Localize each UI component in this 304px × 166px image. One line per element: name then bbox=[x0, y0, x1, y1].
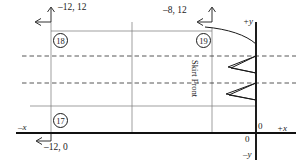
dart-shapes bbox=[226, 56, 256, 100]
coordinate-label-19: –8, 12 bbox=[163, 6, 187, 16]
coordinate-label-17: –12, 0 bbox=[44, 143, 68, 153]
node-marker-19: 19 bbox=[196, 33, 211, 48]
origin-label-upper: 0 bbox=[258, 122, 263, 131]
dashed-construction-lines bbox=[22, 56, 296, 83]
axis-label-minus-y: –y bbox=[243, 150, 252, 159]
diagram-canvas: 18 19 17 –12, 12 –8, 12 –12, 0 –x +x +y … bbox=[0, 0, 304, 166]
axis-label-plus-y: +y bbox=[243, 17, 253, 26]
waistline-curve bbox=[205, 27, 256, 44]
origin-label-lower: 0 bbox=[245, 135, 250, 144]
node-marker-18: 18 bbox=[53, 33, 68, 48]
node-marker-19-label: 19 bbox=[199, 36, 208, 46]
dart-lower bbox=[226, 83, 256, 100]
point-18-arrows bbox=[35, 7, 55, 26]
waist-curve-path bbox=[205, 27, 256, 44]
point-19-arrows bbox=[197, 7, 216, 26]
node-marker-17-label: 17 bbox=[56, 116, 65, 126]
dart-upper bbox=[228, 56, 256, 73]
piece-name-label: Skirt Front bbox=[190, 60, 200, 97]
coordinate-label-18: –12, 12 bbox=[58, 3, 87, 13]
node-marker-18-label: 18 bbox=[56, 36, 65, 46]
axis-label-plus-x: +x bbox=[277, 124, 287, 133]
axis-label-minus-x: –x bbox=[18, 123, 27, 132]
node-marker-17: 17 bbox=[53, 113, 68, 128]
